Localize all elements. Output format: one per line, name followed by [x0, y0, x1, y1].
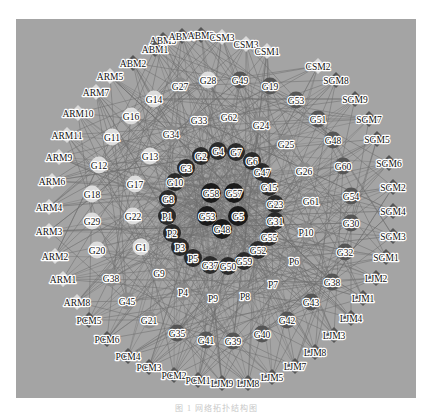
- gene-node-p4[interactable]: P4: [175, 284, 192, 301]
- module-node-csm2[interactable]: CSM2: [306, 58, 331, 74]
- gene-node-g22[interactable]: G22: [125, 208, 142, 225]
- module-node-arm8[interactable]: ARM8: [64, 294, 91, 310]
- module-node-pcm2[interactable]: PCM2: [162, 367, 187, 383]
- gene-node-g28[interactable]: G28: [200, 72, 217, 89]
- gene-node-g54[interactable]: G54: [343, 188, 360, 205]
- gene-node-g39[interactable]: G39: [225, 333, 242, 350]
- gene-node-g24[interactable]: G24: [253, 117, 270, 134]
- module-node-arm3[interactable]: ARM3: [36, 223, 63, 239]
- gene-node-g42[interactable]: G42: [279, 312, 296, 329]
- gene-node-p10[interactable]: P10: [298, 224, 315, 241]
- gene-node-g14[interactable]: G14: [146, 91, 163, 108]
- gene-node-g37[interactable]: G37: [201, 256, 219, 274]
- gene-node-g15[interactable]: G15: [260, 178, 278, 196]
- module-node-arm6[interactable]: ARM6: [39, 173, 66, 189]
- gene-node-g11[interactable]: G11: [104, 129, 121, 146]
- gene-node-g25[interactable]: G25: [278, 136, 295, 153]
- node-label: ARM7: [83, 88, 110, 98]
- node-label: G53: [288, 96, 305, 106]
- gene-node-g13[interactable]: G13: [142, 148, 159, 165]
- gene-node-g43[interactable]: G43: [303, 294, 320, 311]
- gene-node-g12[interactable]: G12: [91, 157, 108, 174]
- node-label: G6: [246, 157, 258, 167]
- gene-node-g7[interactable]: G7: [227, 143, 245, 161]
- gene-node-g41[interactable]: G41: [198, 332, 215, 349]
- gene-node-g5[interactable]: G5: [228, 206, 248, 226]
- gene-node-g45[interactable]: G45: [119, 293, 136, 310]
- gene-node-g16[interactable]: G16: [123, 108, 140, 125]
- module-node-arm11[interactable]: ARM11: [52, 127, 83, 143]
- module-node-ljm8[interactable]: LJM8: [304, 344, 327, 360]
- gene-node-g4[interactable]: G4: [209, 142, 227, 160]
- gene-node-g51[interactable]: G51: [310, 111, 327, 128]
- gene-node-p8[interactable]: P8: [237, 288, 254, 305]
- gene-node-g8[interactable]: G8: [159, 190, 177, 208]
- gene-node-g18[interactable]: G18: [84, 186, 101, 203]
- gene-node-g19[interactable]: G19: [262, 78, 279, 95]
- node-label: ARM5: [97, 72, 124, 82]
- gene-node-g2[interactable]: G2: [192, 147, 210, 165]
- gene-node-p1[interactable]: P1: [158, 207, 176, 225]
- module-node-ljm7[interactable]: LJM7: [284, 358, 307, 374]
- node-label: G34: [163, 130, 180, 140]
- module-node-arm1[interactable]: ARM1: [50, 271, 77, 287]
- gene-node-g29[interactable]: G29: [84, 213, 101, 230]
- gene-node-g35[interactable]: G35: [169, 325, 186, 342]
- gene-node-g49[interactable]: G49: [232, 72, 249, 89]
- gene-node-g48[interactable]: G48: [325, 132, 342, 149]
- gene-node-g48[interactable]: G48: [212, 219, 232, 239]
- module-node-pcm6[interactable]: PCM6: [95, 331, 120, 347]
- module-node-sgm3[interactable]: SGM3: [380, 228, 406, 244]
- gene-node-g38[interactable]: G38: [103, 270, 120, 287]
- gene-node-g61[interactable]: G61: [303, 193, 320, 210]
- gene-node-g58[interactable]: G58: [201, 183, 221, 203]
- gene-node-g17[interactable]: G17: [127, 176, 144, 193]
- node-label: SGM9: [342, 95, 368, 105]
- gene-node-g1[interactable]: G1: [133, 239, 150, 256]
- module-node-pcm1[interactable]: PCM1: [186, 372, 211, 388]
- gene-node-g34[interactable]: G34: [163, 126, 180, 143]
- module-node-ljm2[interactable]: LJM2: [365, 270, 388, 286]
- module-node-sgm7[interactable]: SGM7: [356, 111, 382, 127]
- gene-node-g40[interactable]: G40: [254, 326, 271, 343]
- gene-node-g30[interactable]: G30: [343, 215, 360, 232]
- gene-node-g20[interactable]: G20: [89, 242, 106, 259]
- module-node-ljm5[interactable]: LJM5: [261, 369, 284, 385]
- gene-node-p2[interactable]: P2: [163, 224, 181, 242]
- gene-node-g59[interactable]: G59: [235, 252, 253, 270]
- node-label: G21: [141, 316, 158, 326]
- gene-node-g26[interactable]: G26: [296, 163, 313, 180]
- node-label: ARM2: [42, 252, 69, 262]
- gene-node-g62[interactable]: G62: [221, 109, 238, 126]
- module-node-arm10[interactable]: ARM10: [62, 105, 93, 121]
- gene-node-g3[interactable]: G3: [177, 159, 195, 177]
- module-node-sgm6[interactable]: SGM6: [376, 155, 402, 171]
- gene-node-g9[interactable]: G9: [151, 265, 168, 282]
- gene-node-g23[interactable]: G23: [266, 195, 284, 213]
- gene-node-g27[interactable]: G27: [172, 78, 189, 95]
- gene-node-g57[interactable]: G57: [224, 183, 244, 203]
- gene-node-p9[interactable]: P9: [205, 290, 222, 307]
- gene-node-g21[interactable]: G21: [141, 312, 158, 329]
- module-node-arm4[interactable]: ARM4: [36, 199, 63, 215]
- gene-node-g31[interactable]: G31: [266, 212, 284, 230]
- module-node-sgm2[interactable]: SGM2: [380, 179, 406, 195]
- gene-node-g53[interactable]: G53: [288, 92, 305, 109]
- gene-node-g32[interactable]: G32: [337, 244, 354, 261]
- node-label: G30: [343, 219, 360, 229]
- gene-node-g33[interactable]: G33: [191, 112, 208, 129]
- gene-node-p7[interactable]: P7: [265, 276, 282, 293]
- node-label: G49: [232, 76, 249, 86]
- gene-node-g38[interactable]: G38: [324, 274, 341, 291]
- gene-node-g10[interactable]: G10: [166, 173, 184, 191]
- module-node-sgm1[interactable]: SGM1: [373, 249, 399, 265]
- module-node-ljm3[interactable]: LJM3: [323, 327, 346, 343]
- gene-node-g60[interactable]: G60: [335, 158, 352, 175]
- module-node-ljm1[interactable]: LJM1: [352, 290, 375, 306]
- node-label: G17: [127, 180, 144, 190]
- gene-node-g50[interactable]: G50: [219, 257, 237, 275]
- module-node-ljm9[interactable]: LJM9: [211, 375, 234, 391]
- module-node-sgm4[interactable]: SGM4: [380, 203, 406, 219]
- module-node-arm7[interactable]: ARM7: [83, 84, 110, 100]
- gene-node-p6[interactable]: P6: [286, 253, 303, 270]
